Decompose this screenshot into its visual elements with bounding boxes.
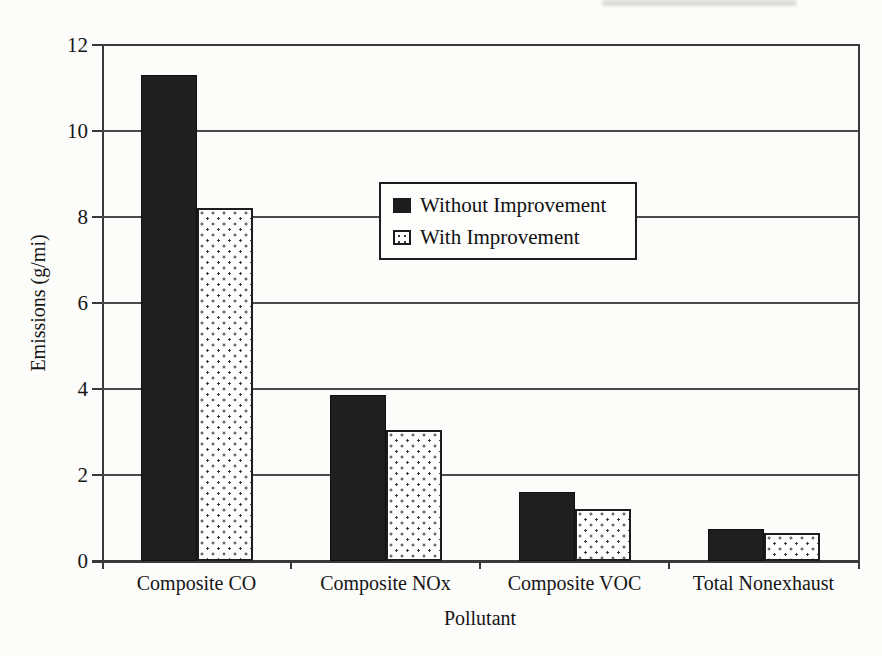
y-tick-8 bbox=[92, 216, 102, 218]
x-category-label-composite-nox: Composite NOx bbox=[291, 570, 480, 596]
y-tick-label-12: 12 bbox=[30, 32, 88, 58]
bar-without-improvement-composite-co bbox=[141, 75, 197, 561]
bar-with-improvement-total-nonexhaust bbox=[764, 533, 820, 561]
y-tick-0 bbox=[92, 560, 102, 562]
y-tick-label-4: 4 bbox=[30, 376, 88, 402]
y-tick-4 bbox=[92, 388, 102, 390]
x-axis-title: Pollutant bbox=[102, 607, 858, 630]
scan-artifact bbox=[602, 0, 797, 6]
legend-label-without-improvement: Without Improvement bbox=[420, 193, 606, 217]
y-tick-label-8: 8 bbox=[30, 204, 88, 230]
x-category-label-composite-voc: Composite VOC bbox=[480, 570, 669, 596]
dotted-white-swatch-icon bbox=[393, 230, 411, 245]
y-tick-2 bbox=[92, 474, 102, 476]
plot-border-top bbox=[102, 44, 860, 46]
bar-with-improvement-composite-co bbox=[197, 208, 253, 561]
legend-item-without-improvement: Without Improvement bbox=[393, 193, 629, 217]
y-tick-12 bbox=[92, 44, 102, 46]
y-tick-10 bbox=[92, 130, 102, 132]
bar-with-improvement-composite-voc bbox=[575, 509, 631, 561]
x-category-label-total-nonexhaust: Total Nonexhaust bbox=[669, 570, 858, 596]
legend-label-with-improvement: With Improvement bbox=[420, 225, 580, 249]
y-axis-line bbox=[102, 45, 104, 569]
y-axis-title: Emissions (g/mi) bbox=[27, 234, 50, 371]
x-category-label-composite-co: Composite CO bbox=[102, 570, 291, 596]
legend: Without Improvement With Improvement bbox=[379, 182, 637, 260]
plot-border-right bbox=[858, 45, 860, 569]
bar-without-improvement-composite-voc bbox=[519, 492, 575, 561]
solid-black-swatch-icon bbox=[393, 198, 411, 213]
gridline-y-10 bbox=[102, 130, 858, 132]
bar-with-improvement-composite-nox bbox=[386, 430, 442, 561]
bar-without-improvement-composite-nox bbox=[330, 395, 386, 561]
legend-item-with-improvement: With Improvement bbox=[393, 225, 629, 249]
emissions-chart-figure: Total NonexhaustComposite VOCComposite N… bbox=[0, 0, 882, 656]
y-tick-label-0: 0 bbox=[30, 548, 88, 574]
y-tick-label-2: 2 bbox=[30, 462, 88, 488]
y-tick-6 bbox=[92, 302, 102, 304]
bar-without-improvement-total-nonexhaust bbox=[708, 529, 764, 561]
y-tick-label-10: 10 bbox=[30, 118, 88, 144]
